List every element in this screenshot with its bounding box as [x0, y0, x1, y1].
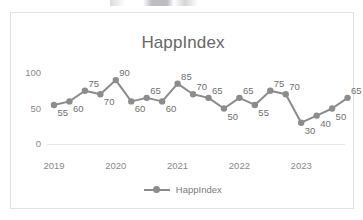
data-label-10: 65 — [212, 85, 223, 96]
data-point-3[interactable] — [97, 91, 103, 97]
legend-label-happindex: HappIndex — [176, 184, 222, 195]
data-label-9: 70 — [197, 81, 208, 92]
data-point-13[interactable] — [252, 102, 258, 108]
data-point-10[interactable] — [205, 95, 211, 101]
data-point-9[interactable] — [190, 91, 196, 97]
data-point-6[interactable] — [144, 95, 150, 101]
data-point-19[interactable] — [344, 95, 350, 101]
data-label-19: 65 — [351, 85, 362, 96]
data-label-14: 75 — [274, 78, 285, 89]
data-label-16: 30 — [305, 125, 316, 136]
data-point-18[interactable] — [329, 105, 335, 111]
data-label-7: 60 — [166, 103, 177, 114]
data-point-2[interactable] — [82, 88, 88, 94]
data-point-8[interactable] — [174, 80, 180, 86]
chart-legend[interactable]: HappIndex — [11, 183, 355, 195]
data-point-17[interactable] — [313, 112, 319, 118]
data-label-11: 50 — [227, 111, 238, 122]
data-label-13: 55 — [258, 107, 269, 118]
data-label-15: 70 — [289, 81, 300, 92]
data-point-16[interactable] — [298, 120, 304, 126]
data-point-11[interactable] — [221, 105, 227, 111]
data-label-4: 90 — [119, 67, 130, 78]
data-label-12: 65 — [243, 85, 254, 96]
data-point-12[interactable] — [236, 95, 242, 101]
data-label-17: 40 — [320, 118, 331, 129]
data-point-15[interactable] — [283, 91, 289, 97]
cropped-text-artifact — [110, 0, 220, 6]
data-point-0[interactable] — [51, 102, 57, 108]
data-point-4[interactable] — [113, 77, 119, 83]
data-label-6: 65 — [150, 85, 161, 96]
data-label-3: 70 — [104, 96, 115, 107]
data-label-2: 75 — [88, 78, 99, 89]
data-label-18: 50 — [336, 111, 347, 122]
data-point-7[interactable] — [159, 98, 165, 104]
chart-screenshot: HappIndex 050100 20192020202120222023 55… — [0, 0, 363, 220]
data-point-1[interactable] — [66, 98, 72, 104]
chart-container[interactable]: HappIndex 050100 20192020202120222023 55… — [10, 12, 354, 209]
data-label-0: 55 — [58, 107, 69, 118]
data-point-14[interactable] — [267, 88, 273, 94]
legend-marker-icon — [144, 185, 170, 194]
data-label-5: 60 — [135, 103, 146, 114]
data-point-5[interactable] — [128, 98, 134, 104]
plot-area[interactable]: 5560757090606560857065506555757030405065 — [11, 13, 355, 210]
data-label-1: 60 — [73, 103, 84, 114]
data-label-8: 85 — [181, 71, 192, 82]
